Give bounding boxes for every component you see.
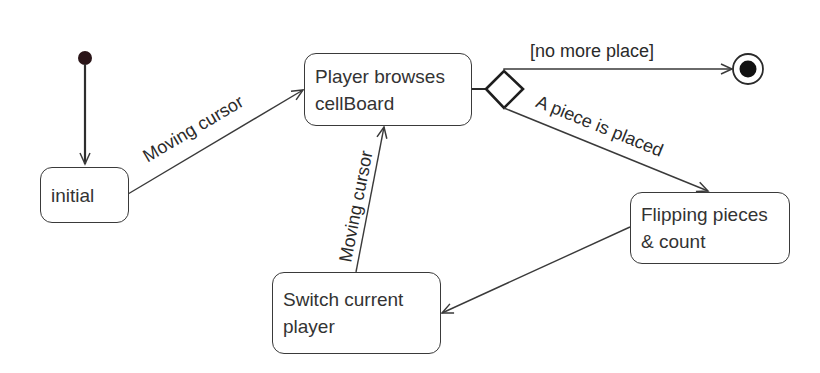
state-flip-label-line2: & count (641, 228, 779, 255)
final-state-inner-icon (740, 61, 757, 78)
state-initial-label: initial (51, 182, 118, 209)
state-switch-label-line1: Switch current (283, 286, 430, 313)
state-switch-current-player[interactable]: Switch current player (272, 272, 441, 354)
state-player-browses-cellboard[interactable]: Player browses cellBoard (304, 53, 472, 126)
initial-pseudostate-icon (78, 51, 92, 65)
state-flip-label-line1: Flipping pieces (641, 201, 779, 228)
state-switch-label-line2: player (283, 313, 430, 340)
state-browse-label-line1: Player browses (315, 63, 461, 90)
transition-decision-to-final (504, 69, 732, 71)
state-flipping-pieces-count[interactable]: Flipping pieces & count (630, 192, 790, 264)
state-browse-label-line2: cellBoard (315, 90, 461, 117)
choice-diamond-icon (486, 71, 523, 108)
state-initial[interactable]: initial (40, 167, 129, 223)
transition-label-no-more-place: [no more place] (530, 41, 654, 62)
transition-flip-to-switch (442, 227, 630, 313)
